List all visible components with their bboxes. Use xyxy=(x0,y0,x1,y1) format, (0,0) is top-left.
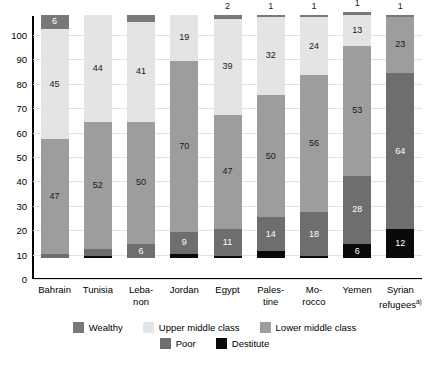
x-axis-label-line: Bahrain xyxy=(33,284,77,296)
bar-group[interactable]: 12364121 xyxy=(386,15,414,259)
bar-stack[interactable]: 113532861 xyxy=(343,12,371,258)
y-tick-label-30: 30 xyxy=(16,200,27,211)
bar-group[interactable]: 239471112 xyxy=(214,15,242,259)
bar-segment[interactable]: 19 xyxy=(170,15,198,61)
plot-area: 0102030405060708090100 64547244523134150… xyxy=(32,16,422,279)
y-tick-label-100: 100 xyxy=(11,30,27,41)
segment-value-label: 39 xyxy=(222,62,232,71)
y-tick-label-70: 70 xyxy=(16,103,27,114)
y-tick-label-20: 20 xyxy=(16,225,27,236)
bar-segment[interactable]: 9 xyxy=(170,232,198,254)
segment-value-label: 28 xyxy=(352,205,362,214)
bar-segment[interactable]: 44 xyxy=(84,15,112,122)
bar-segment[interactable]: 64 xyxy=(386,73,414,229)
bar-segment[interactable]: 50 xyxy=(127,122,155,244)
legend-item[interactable]: Lower middle class xyxy=(260,322,357,333)
bar-segment[interactable]: 2 xyxy=(170,254,198,259)
bar-segment[interactable]: 18 xyxy=(300,212,328,256)
bar-segment[interactable]: 11 xyxy=(214,229,242,256)
bar-segment[interactable]: 52 xyxy=(84,122,112,249)
bar-segment[interactable]: 12 xyxy=(386,229,414,258)
segment-value-label: 12 xyxy=(395,239,405,248)
segment-value-label: 32 xyxy=(266,51,276,60)
bar-segment[interactable]: 3 xyxy=(257,251,285,258)
segment-value-label: 56 xyxy=(309,139,319,148)
segment-value-label: 50 xyxy=(136,178,146,187)
bar-segment[interactable]: 50 xyxy=(257,95,285,217)
bar-group[interactable]: 445231 xyxy=(84,15,112,259)
bars-layer: 6454724452313415061970922394711121325014… xyxy=(33,0,422,260)
segment-value-label: 47 xyxy=(50,192,60,201)
y-tick-label-60: 60 xyxy=(16,127,27,138)
bar-segment[interactable]: 24 xyxy=(300,17,328,76)
bar-segment[interactable]: 28 xyxy=(343,176,371,244)
bar-group[interactable]: 132501431 xyxy=(257,15,285,259)
segment-value-label: 24 xyxy=(309,42,319,51)
x-axis-label: Tunisia xyxy=(76,284,120,296)
legend-swatch-icon xyxy=(216,338,227,349)
bar-segment[interactable]: 47 xyxy=(214,115,242,230)
segment-value-label: 44 xyxy=(93,64,103,73)
bar-segment[interactable]: 47 xyxy=(41,139,69,254)
x-axis-label-line: Tunisia xyxy=(76,284,120,296)
bar-segment[interactable]: 1 xyxy=(300,256,328,258)
legend-item[interactable]: Destitute xyxy=(216,338,270,349)
bar-stack[interactable]: 645472 xyxy=(41,15,69,259)
legend-row: PoorDestitute xyxy=(0,338,429,349)
bar-stack[interactable]: 197092 xyxy=(170,15,198,259)
bar-stack[interactable]: 132501431 xyxy=(257,15,285,259)
legend-label: Wealthy xyxy=(89,322,123,333)
bar-group[interactable]: 341506 xyxy=(127,15,155,259)
bar-segment[interactable]: 41 xyxy=(127,22,155,122)
bar-group[interactable]: 124561811 xyxy=(300,15,328,259)
bar-group[interactable]: 645472 xyxy=(41,15,69,259)
y-tick-label-40: 40 xyxy=(16,176,27,187)
bar-segment[interactable]: 56 xyxy=(300,75,328,212)
x-axis-label-line: non xyxy=(119,296,163,308)
bar-segment[interactable]: 14 xyxy=(257,217,285,251)
footnote-marker: a) xyxy=(416,298,422,305)
bar-segment[interactable]: 39 xyxy=(214,19,242,114)
bar-segment[interactable]: 6 xyxy=(41,15,69,30)
bar-segment[interactable]: 53 xyxy=(343,46,371,175)
above-bar-value-label: 1 xyxy=(300,1,328,11)
bar-segment[interactable]: 32 xyxy=(257,17,285,95)
x-axis-label: Syrianrefugeesa) xyxy=(378,284,422,310)
x-axis-label-line: rocco xyxy=(292,296,336,308)
bar-segment[interactable]: 3 xyxy=(127,15,155,22)
bar-segment[interactable]: 23 xyxy=(386,17,414,73)
bar-group[interactable]: 197092 xyxy=(170,15,198,259)
bar-group[interactable]: 113532861 xyxy=(343,12,371,258)
bar-stack[interactable]: 124561811 xyxy=(300,15,328,259)
x-axis-label-line: refugeesa) xyxy=(378,296,422,311)
bar-stack[interactable]: 12364121 xyxy=(386,15,414,259)
bar-segment[interactable]: 1 xyxy=(84,256,112,258)
segment-value-label: 13 xyxy=(352,26,362,35)
y-tick-label-10: 10 xyxy=(16,249,27,260)
bar-segment[interactable]: 70 xyxy=(170,61,198,232)
bar-segment[interactable]: 1 xyxy=(214,256,242,258)
legend-item[interactable]: Upper middle class xyxy=(143,322,240,333)
segment-value-label: 70 xyxy=(179,142,189,151)
legend-label: Lower middle class xyxy=(276,322,357,333)
y-tick-label-80: 80 xyxy=(16,78,27,89)
bar-segment[interactable]: 45 xyxy=(41,29,69,139)
bar-segment[interactable]: 6 xyxy=(343,244,371,259)
y-tick-label-90: 90 xyxy=(16,54,27,65)
legend-item[interactable]: Wealthy xyxy=(73,322,123,333)
bar-segment[interactable]: 3 xyxy=(84,249,112,256)
bar-segment[interactable]: 2 xyxy=(41,254,69,259)
legend-label: Upper middle class xyxy=(159,322,240,333)
bar-stack[interactable]: 239471112 xyxy=(214,15,242,259)
x-axis-label: Leba-non xyxy=(119,284,163,307)
legend-label: Destitute xyxy=(232,338,270,349)
bar-segment[interactable]: 6 xyxy=(127,244,155,259)
segment-value-label: 52 xyxy=(93,181,103,190)
bar-segment[interactable]: 13 xyxy=(343,15,371,47)
bar-stack[interactable]: 445231 xyxy=(84,15,112,259)
legend-item[interactable]: Poor xyxy=(160,338,196,349)
x-axis-label: Mo-rocco xyxy=(292,284,336,307)
above-bar-value-label: 1 xyxy=(343,0,371,8)
segment-value-label: 11 xyxy=(223,238,232,247)
bar-stack[interactable]: 341506 xyxy=(127,15,155,259)
